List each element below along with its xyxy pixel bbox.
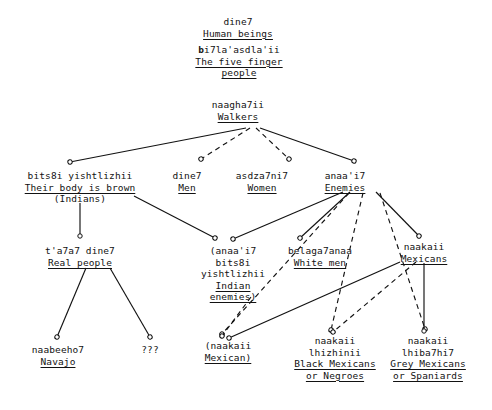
node-naabeeho7-navajo: naabeeho7 Navajo bbox=[13, 344, 103, 367]
node-naakaii-mexican: (naakaii Mexican) bbox=[187, 340, 269, 363]
edge-realpeople-navajo bbox=[57, 268, 86, 337]
node-dine7-human-beings: dine7 Human beings bbox=[178, 16, 298, 39]
node-unknown: ??? bbox=[130, 344, 170, 356]
node-native-line1: naakaii bbox=[281, 335, 389, 347]
edge-enemies-indianenemies bbox=[233, 192, 343, 239]
node-gloss-label: Mexican) bbox=[187, 352, 269, 364]
node-gloss-line1: Black Mexicans bbox=[281, 358, 389, 370]
node-gloss-line2: enemies) bbox=[188, 291, 278, 303]
node-ta7a7-dine7-real-people: t'a7a7 dine7 Real people bbox=[25, 245, 135, 268]
node-gloss-label: Women bbox=[224, 182, 300, 194]
node-naakaii-lhizhinii: naakaii lhizhinii Black Mexicans or Negr… bbox=[281, 335, 389, 381]
node-native-line2: bits8i bbox=[188, 257, 278, 269]
node-anaa17-enemies: anaa'i7 Enemies bbox=[307, 170, 383, 193]
node-dine7-men: dine7 Men bbox=[156, 170, 218, 193]
node-asdza7ni7-women: asdza7ni7 Women bbox=[224, 170, 300, 193]
edge-enemies-whitemen bbox=[300, 192, 350, 238]
node-native-label: t'a7a7 dine7 bbox=[25, 245, 135, 257]
node-native-line2: lhizhinii bbox=[281, 347, 389, 359]
edge-realpeople-unknown bbox=[110, 268, 150, 337]
node-indian-enemies: (anaa'i7 bits8i yishtlizhii Indian enemi… bbox=[188, 245, 278, 303]
node-native-label: naakaii bbox=[386, 241, 462, 253]
node-gloss-line1: Indian bbox=[188, 280, 278, 292]
node-gloss-label: Navajo bbox=[13, 356, 103, 368]
node-native-line2: lhiba7hi7 bbox=[374, 347, 482, 359]
node-native-label: asdza7ni7 bbox=[224, 170, 300, 182]
node-native-line3: yishtlizhii bbox=[188, 268, 278, 280]
node-gloss-label: Walkers bbox=[178, 111, 298, 123]
edge-walkers-men bbox=[201, 128, 250, 159]
node-native-label: belaga7anaa bbox=[272, 245, 368, 257]
edge-mexicans-blackmexicans bbox=[333, 262, 416, 332]
node-gloss-label: White men bbox=[272, 257, 368, 269]
node-gloss-label: Their body is brown bbox=[8, 182, 152, 194]
node-naakaii-lhiba7hi7: naakaii lhiba7hi7 Grey Mexicans or Spani… bbox=[374, 335, 482, 381]
node-naagha7ii-walkers: naagha7ii Walkers bbox=[178, 99, 298, 122]
node-gloss-line1: Grey Mexicans bbox=[374, 358, 482, 370]
node-gloss-label: Enemies bbox=[307, 182, 383, 194]
node-gloss-label: Men bbox=[156, 182, 218, 194]
node-gloss-label: Mexicans bbox=[386, 253, 462, 265]
node-native-label: anaa'i7 bbox=[307, 170, 383, 182]
node-bits8i-yishtlizhii: bits8i yishtlizhii Their body is brown (… bbox=[8, 170, 152, 205]
node-paren-label: (Indians) bbox=[8, 193, 152, 205]
node-belaga7anaa-white-men: belaga7anaa White men bbox=[272, 245, 368, 268]
node-naakaii-mexicans: naakaii Mexicans bbox=[386, 241, 462, 264]
node-bi7laasdlaii: bi7la'asdla'ii The five finger people bbox=[154, 44, 324, 79]
node-native-line1: (anaa'i7 bbox=[188, 245, 278, 257]
node-native-label: (naakaii bbox=[187, 340, 269, 352]
node-gloss-line2: or Spaniards bbox=[374, 370, 482, 382]
node-native-label: bi7la'asdla'ii bbox=[154, 44, 324, 56]
node-native-label: dine7 bbox=[156, 170, 218, 182]
node-native-label: dine7 bbox=[178, 16, 298, 28]
node-gloss-label: Human beings bbox=[178, 28, 298, 40]
node-native-label: ??? bbox=[130, 344, 170, 356]
edge-walkers-enemies bbox=[260, 128, 354, 161]
node-gloss-line2: people bbox=[154, 67, 324, 79]
node-native-label: bits8i yishtlizhii bbox=[8, 170, 152, 182]
node-gloss-line2: or Negroes bbox=[281, 370, 389, 382]
node-native-label: naabeeho7 bbox=[13, 344, 103, 356]
edge-enemies-mexicans bbox=[376, 192, 419, 236]
node-native-label: naagha7ii bbox=[178, 99, 298, 111]
edge-walkers-indians bbox=[70, 128, 246, 162]
node-gloss-label: Real people bbox=[25, 257, 135, 269]
diagram-canvas: dine7 Human beings bi7la'asdla'ii The fi… bbox=[0, 0, 492, 410]
node-gloss-line1: The five finger bbox=[154, 56, 324, 68]
node-native-line1: naakaii bbox=[374, 335, 482, 347]
